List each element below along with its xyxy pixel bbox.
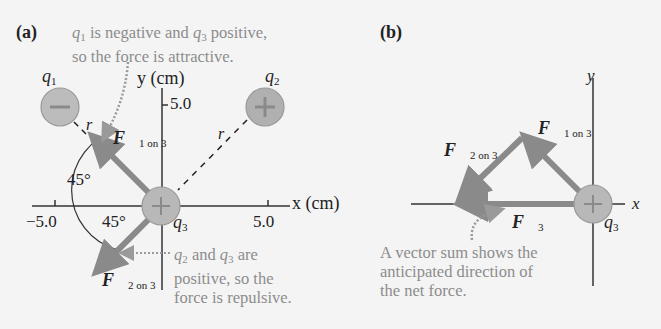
panel-a-label: (a) bbox=[16, 22, 37, 43]
angle-top-label: 45° bbox=[67, 170, 91, 190]
panel-b-label: (b) bbox=[380, 22, 402, 43]
f1-on-3-label-a: F⃗1 on 3 bbox=[113, 128, 167, 149]
b-f1-arrow bbox=[532, 144, 580, 192]
q3-label-a: q3 bbox=[173, 212, 188, 233]
f1-on-3-label-b: F⃗1 on 3 bbox=[538, 118, 592, 139]
f3-label-b: F⃗3 bbox=[512, 212, 544, 233]
note-attractive: q1 is negative and q3 positive, so the f… bbox=[72, 23, 267, 66]
x-axis-label-b: x bbox=[632, 194, 640, 214]
x-tick-neg5: −5.0 bbox=[26, 212, 57, 232]
y-tick-5: 5.0 bbox=[170, 94, 191, 114]
q2-label: q2 bbox=[265, 66, 280, 87]
f1-on-3-arrow bbox=[100, 144, 150, 194]
f2-on-3-label-b: F⃗2 on 3 bbox=[444, 140, 498, 161]
y-axis-label-b: y bbox=[587, 66, 595, 86]
charge-q2 bbox=[246, 88, 284, 126]
x-axis-label-a: x (cm) bbox=[292, 193, 339, 214]
charge-q1 bbox=[41, 88, 79, 126]
angle-bottom-label: 45° bbox=[102, 212, 126, 232]
q1-label: q1 bbox=[42, 66, 57, 87]
r2-label: r bbox=[218, 125, 224, 143]
y-axis-label-a: y (cm) bbox=[137, 68, 184, 89]
r1-label: r bbox=[86, 116, 92, 134]
note-vector-sum: A vector sum shows the anticipated direc… bbox=[380, 243, 538, 300]
r1-line bbox=[74, 122, 86, 134]
f2-on-3-label-a: F⃗2 on 3 bbox=[102, 270, 156, 291]
q3-label-b: q3 bbox=[604, 212, 619, 233]
r2-line bbox=[178, 120, 247, 190]
angle-arc bbox=[72, 130, 118, 250]
note-repulsive: q2 and q3 are positive, so the force is … bbox=[174, 245, 292, 307]
x-tick-pos5: 5.0 bbox=[253, 212, 274, 232]
